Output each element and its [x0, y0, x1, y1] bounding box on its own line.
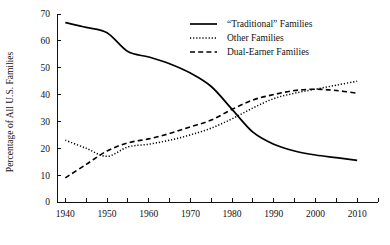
x-tick-label: 1980	[223, 209, 242, 219]
series-line-dotted	[65, 81, 357, 156]
y-tick-label: 40	[41, 90, 51, 100]
x-tick-label: 1950	[98, 209, 117, 219]
legend-label: “Traditional” Families	[227, 19, 313, 29]
series-group	[65, 23, 357, 178]
x-tick-label: 2000	[306, 209, 325, 219]
chart-container: Percentage of All U.S. Families 01020304…	[0, 0, 390, 245]
chart-legend: “Traditional” FamiliesOther FamiliesDual…	[190, 19, 313, 57]
x-axis: 19401950196019701980199020002010	[56, 198, 378, 219]
y-tick-label: 60	[41, 36, 51, 46]
y-axis: 010203040506070	[41, 9, 62, 207]
y-axis-title-group: Percentage of All U.S. Families	[5, 52, 15, 173]
line-chart: Percentage of All U.S. Families 01020304…	[0, 0, 390, 245]
y-tick-label: 70	[41, 9, 51, 19]
y-tick-label: 30	[41, 117, 51, 127]
x-tick-label: 1970	[181, 209, 200, 219]
y-tick-group: 010203040506070	[41, 9, 62, 207]
y-tick-label: 20	[41, 144, 51, 154]
legend-label: Dual-Earner Families	[227, 47, 309, 57]
x-tick-label: 1990	[264, 209, 283, 219]
y-tick-label: 50	[41, 63, 51, 73]
x-tick-group: 19401950196019701980199020002010	[56, 209, 367, 219]
y-axis-title: Percentage of All U.S. Families	[5, 52, 15, 173]
x-minor-tick-group	[65, 198, 378, 202]
legend-label: Other Families	[227, 33, 284, 43]
y-tick-label: 10	[41, 171, 51, 181]
x-tick-label: 2010	[348, 209, 367, 219]
x-tick-label: 1940	[56, 209, 75, 219]
series-line-solid	[65, 23, 357, 161]
x-tick-label: 1960	[139, 209, 158, 219]
y-tick-label: 0	[45, 197, 50, 207]
series-line-dashed	[65, 89, 357, 178]
